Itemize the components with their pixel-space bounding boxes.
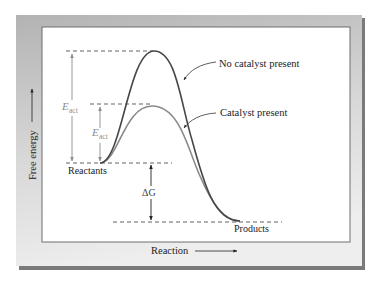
- energy-diagram-figure: No catalyst present Catalyst present Rea…: [0, 0, 384, 287]
- reactants-label: Reactants: [68, 165, 107, 176]
- no-catalyst-label: No catalyst present: [219, 58, 300, 69]
- svg-text:act: act: [99, 132, 109, 141]
- products-label: Products: [234, 223, 269, 234]
- plot-panel: [42, 27, 350, 242]
- delta-g-label: ΔG: [142, 187, 156, 198]
- x-axis-label: Reaction: [151, 245, 189, 256]
- catalyst-label: Catalyst present: [220, 107, 287, 118]
- svg-text:E: E: [91, 126, 99, 138]
- energy-diagram-svg: No catalyst present Catalyst present Rea…: [0, 0, 384, 287]
- y-axis-label: Free energy: [27, 130, 38, 180]
- svg-text:act: act: [69, 106, 79, 115]
- svg-text:E: E: [61, 100, 69, 112]
